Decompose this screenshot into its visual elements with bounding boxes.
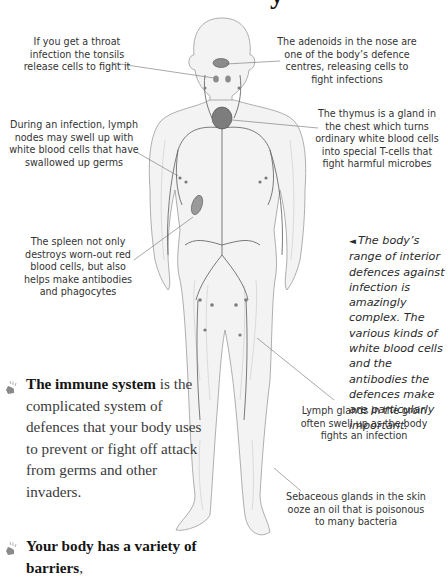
callout-spleen: The spleen not only destroys worn-out re… xyxy=(18,236,138,299)
caption-text: The body’s range of interior defences ag… xyxy=(349,234,445,432)
fact-body: is the complicated system of defences th… xyxy=(26,375,201,500)
fact-barriers: Your body has a variety of barriers, xyxy=(26,535,206,578)
callout-thymus: The thymus is a gland in the chest which… xyxy=(310,108,444,171)
callout-lymph-nodes: During an infection, lymph nodes may swe… xyxy=(8,119,140,169)
figure-caption: ◄The body’s range of interior defences a… xyxy=(349,233,445,433)
hand-pointer-icon xyxy=(3,380,19,396)
callout-sebaceous: Sebaceous glands in the skin ooze an oil… xyxy=(286,491,426,529)
fact-heading: Your body has a variety of barriers xyxy=(26,537,197,576)
caption-arrow-icon: ◄ xyxy=(349,236,356,246)
hand-pointer-icon xyxy=(3,541,19,557)
page-title-fragment: y xyxy=(270,0,284,10)
fact-body: , xyxy=(79,559,83,576)
callout-tonsils: If you get a throat infection the tonsil… xyxy=(12,36,142,74)
fact-immune-system: The immune system is the complicated sys… xyxy=(26,373,206,503)
callout-adenoids: The adenoids in the nose are one of the … xyxy=(276,36,418,86)
fact-heading: The immune system xyxy=(26,375,156,392)
